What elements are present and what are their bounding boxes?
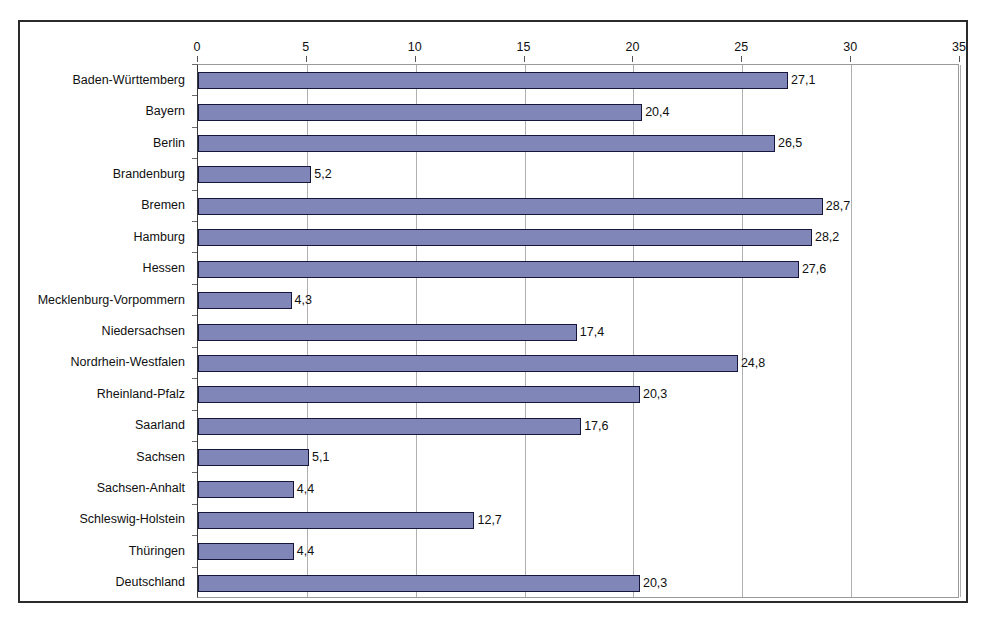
x-axis-tick-mark bbox=[524, 56, 525, 62]
y-axis-category-label: Rheinland-Pfalz bbox=[97, 387, 185, 401]
bar-value-label: 17,4 bbox=[577, 324, 604, 341]
y-axis-category-label: Saarland bbox=[135, 418, 185, 432]
bar bbox=[198, 135, 775, 152]
bar-value-label: 4,3 bbox=[292, 292, 312, 309]
y-axis-category-label: Sachsen-Anhalt bbox=[97, 481, 185, 495]
bar-value-label: 5,1 bbox=[309, 449, 329, 466]
bar bbox=[198, 166, 311, 183]
bar-value-label: 28,7 bbox=[823, 198, 850, 215]
y-axis-category-label: Brandenburg bbox=[113, 167, 185, 181]
y-axis-category-label: Bremen bbox=[141, 198, 185, 212]
x-axis-tick-label: 5 bbox=[302, 40, 309, 54]
x-axis-tick-mark bbox=[632, 56, 633, 62]
bar-value-label: 24,8 bbox=[738, 355, 765, 372]
bar bbox=[198, 198, 823, 215]
y-axis-category-label: Hamburg bbox=[134, 230, 185, 244]
gridline bbox=[960, 65, 961, 597]
chart-canvas: 05101520253035 Baden-WürttembergBayernBe… bbox=[20, 22, 970, 605]
bar bbox=[198, 512, 474, 529]
y-axis-category-label: Mecklenburg-Vorpommern bbox=[38, 293, 185, 307]
bar bbox=[198, 229, 812, 246]
x-axis-tick-mark bbox=[850, 56, 851, 62]
bar bbox=[198, 104, 642, 121]
bar-value-label: 20,4 bbox=[642, 104, 669, 121]
x-axis-tick-mark bbox=[306, 56, 307, 62]
bar-value-label: 4,4 bbox=[294, 481, 314, 498]
y-axis-category-label: Thüringen bbox=[129, 544, 185, 558]
bar-value-label: 20,3 bbox=[640, 575, 667, 592]
bar bbox=[198, 72, 788, 89]
bar bbox=[198, 449, 309, 466]
plot-area: 27,120,426,55,228,728,227,64,317,424,820… bbox=[197, 64, 959, 598]
x-axis-tick-mark bbox=[741, 56, 742, 62]
bar-value-label: 17,6 bbox=[581, 418, 608, 435]
x-axis-tick-label: 20 bbox=[625, 40, 639, 54]
bar-value-label: 26,5 bbox=[775, 135, 802, 152]
x-axis-tick-label: 30 bbox=[843, 40, 857, 54]
x-axis-tick-label: 0 bbox=[194, 40, 201, 54]
bar-value-label: 4,4 bbox=[294, 543, 314, 560]
y-axis: Baden-WürttembergBayernBerlinBrandenburg… bbox=[20, 64, 192, 598]
bar-value-label: 5,2 bbox=[311, 166, 331, 183]
bar bbox=[198, 386, 640, 403]
y-axis-category-label: Sachsen bbox=[136, 450, 185, 464]
y-axis-category-label: Deutschland bbox=[116, 575, 186, 589]
bar bbox=[198, 418, 581, 435]
bar bbox=[198, 261, 799, 278]
x-axis: 05101520253035 bbox=[197, 40, 959, 62]
y-axis-category-label: Niedersachsen bbox=[102, 324, 185, 338]
bar-value-label: 12,7 bbox=[474, 512, 501, 529]
y-axis-category-label: Nordrhein-Westfalen bbox=[71, 355, 185, 369]
bar bbox=[198, 292, 292, 309]
bar bbox=[198, 543, 294, 560]
bar-value-label: 20,3 bbox=[640, 386, 667, 403]
bar-value-label: 27,1 bbox=[788, 72, 815, 89]
y-axis-category-label: Bayern bbox=[145, 104, 185, 118]
y-axis-category-label: Berlin bbox=[153, 136, 185, 150]
bar bbox=[198, 481, 294, 498]
x-axis-tick-mark bbox=[197, 56, 198, 62]
x-axis-tick-label: 25 bbox=[734, 40, 748, 54]
bar bbox=[198, 575, 640, 592]
y-axis-category-label: Baden-Württemberg bbox=[72, 73, 185, 87]
chart-outer-frame: 05101520253035 Baden-WürttembergBayernBe… bbox=[18, 20, 968, 603]
bar bbox=[198, 355, 738, 372]
y-axis-category-label: Hessen bbox=[143, 261, 185, 275]
bar-value-label: 27,6 bbox=[799, 261, 826, 278]
bar bbox=[198, 324, 577, 341]
x-axis-tick-label: 10 bbox=[408, 40, 422, 54]
x-axis-tick-mark bbox=[415, 56, 416, 62]
gridline bbox=[851, 65, 852, 597]
x-axis-tick-label: 35 bbox=[952, 40, 966, 54]
x-axis-tick-mark bbox=[959, 56, 960, 62]
bar-value-label: 28,2 bbox=[812, 229, 839, 246]
y-axis-category-label: Schleswig-Holstein bbox=[79, 512, 185, 526]
x-axis-tick-label: 15 bbox=[517, 40, 531, 54]
